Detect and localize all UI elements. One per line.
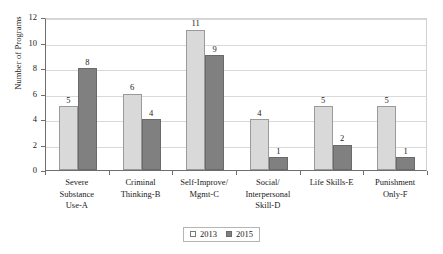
y-tick-label: 10 <box>29 38 38 48</box>
bar-value-label: 11 <box>186 18 206 28</box>
legend-label-2013: 2013 <box>200 229 217 239</box>
x-tick-mark <box>300 171 301 175</box>
bar-group: 52 <box>314 19 352 170</box>
legend-label-2015: 2015 <box>236 229 253 239</box>
bar-2015-2[interactable] <box>142 119 161 170</box>
bar-2013-3[interactable] <box>186 30 205 170</box>
legend-item-2015[interactable]: 2015 <box>226 229 253 239</box>
bar-2015-5[interactable] <box>333 145 352 171</box>
bar-2013-6[interactable] <box>377 106 396 170</box>
bar-group: 119 <box>186 19 224 170</box>
x-tick-mark <box>172 171 173 175</box>
y-tick-label: 4 <box>33 114 37 124</box>
gridline <box>46 147 426 148</box>
gridline <box>46 70 426 71</box>
bar-chart-figure: Number of Programs 024681012 58641194152… <box>0 0 443 254</box>
x-tick-mark <box>363 171 364 175</box>
y-tick-label: 12 <box>29 12 38 22</box>
bar-value-label: 1 <box>396 146 416 156</box>
plot-area: 5864119415251 <box>45 18 427 171</box>
bar-value-label: 1 <box>268 146 288 156</box>
bar-2015-4[interactable] <box>269 157 288 170</box>
legend-swatch-2015-icon <box>226 231 232 237</box>
bar-2015-1[interactable] <box>78 68 97 170</box>
bar-group: 64 <box>123 19 161 170</box>
x-tick-mark <box>427 171 428 175</box>
bar-2013-1[interactable] <box>59 106 78 170</box>
bar-value-label: 6 <box>122 82 142 92</box>
bar-value-label: 8 <box>77 57 97 67</box>
gridline <box>46 45 426 46</box>
y-tick-label: 2 <box>33 140 37 150</box>
legend-swatch-2013-icon <box>190 231 196 237</box>
gridline <box>46 96 426 97</box>
y-tick-label: 6 <box>33 89 37 99</box>
bar-value-label: 5 <box>377 95 397 105</box>
bar-value-label: 4 <box>249 108 269 118</box>
bar-value-label: 5 <box>313 95 333 105</box>
x-tick-mark <box>109 171 110 175</box>
legend-box: 2013 2015 <box>183 227 260 242</box>
bar-value-label: 4 <box>141 108 161 118</box>
bar-2013-4[interactable] <box>250 119 269 170</box>
y-tick-label: 8 <box>33 63 37 73</box>
bar-2013-2[interactable] <box>123 94 142 171</box>
y-axis-ticks: 024681012 <box>0 18 45 171</box>
legend-item-2013[interactable]: 2013 <box>190 229 217 239</box>
bar-group: 51 <box>377 19 415 170</box>
bar-2015-3[interactable] <box>205 55 224 170</box>
bar-group: 58 <box>59 19 97 170</box>
bar-group: 41 <box>250 19 288 170</box>
gridline <box>46 19 426 20</box>
bar-value-label: 9 <box>205 44 225 54</box>
bar-value-label: 5 <box>58 95 78 105</box>
legend: 2013 2015 <box>0 227 443 242</box>
bar-2015-6[interactable] <box>396 157 415 170</box>
bar-2013-5[interactable] <box>314 106 333 170</box>
x-tick-mark <box>45 171 46 175</box>
category-label-6: Punishment Only-F <box>356 177 434 200</box>
gridline <box>46 121 426 122</box>
y-tick-label: 0 <box>33 165 37 175</box>
x-tick-mark <box>236 171 237 175</box>
bar-value-label: 2 <box>332 133 352 143</box>
